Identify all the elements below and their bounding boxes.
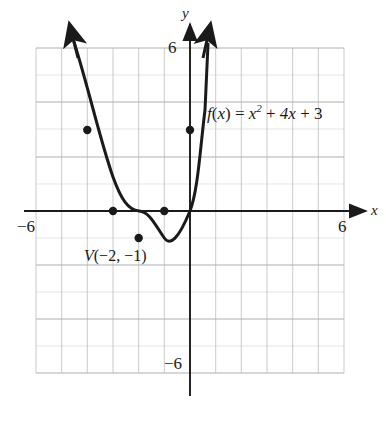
equation-plus-2: +	[300, 104, 310, 123]
vertex-label: V(−2, −1)	[84, 248, 147, 264]
equation-label: f(x) = x2 + 4x + 3	[207, 103, 323, 122]
y-tick-label-positive-6: 6	[168, 39, 177, 56]
vertex-y-value: −1	[124, 247, 141, 264]
equation-equals: =	[235, 104, 245, 123]
point-vertex	[135, 234, 143, 242]
equation-paren-close: )	[225, 104, 231, 123]
x-axis-label: x	[371, 203, 378, 218]
y-axis-label: y	[182, 6, 189, 21]
graph-canvas	[0, 0, 386, 427]
equation-term3: 3	[314, 104, 323, 123]
point-minus4-3	[83, 126, 91, 134]
y-tick-label-negative-6: −6	[164, 355, 182, 372]
point-x-intercept-minus3	[109, 207, 117, 215]
graph-figure: y x 6 −6 −6 6 f(x) = x2 + 4x + 3 V(−2, −…	[0, 0, 386, 427]
curve-left-arrowhead	[70, 26, 78, 58]
vertex-x-value: −2	[99, 247, 116, 264]
x-tick-label-negative-6: −6	[17, 218, 35, 235]
point-y-intercept-3	[186, 126, 194, 134]
vertex-comma: ,	[116, 247, 120, 264]
equation-plus-1: +	[266, 104, 276, 123]
equation-term2: 4x	[280, 104, 296, 123]
point-x-intercept-minus1	[160, 207, 168, 215]
x-tick-label-positive-6: 6	[338, 218, 347, 235]
equation-arg: x	[217, 104, 225, 123]
equation-term1-exponent: 2	[256, 102, 262, 114]
vertex-name: V	[84, 247, 94, 264]
vertex-paren-close: )	[141, 247, 146, 264]
